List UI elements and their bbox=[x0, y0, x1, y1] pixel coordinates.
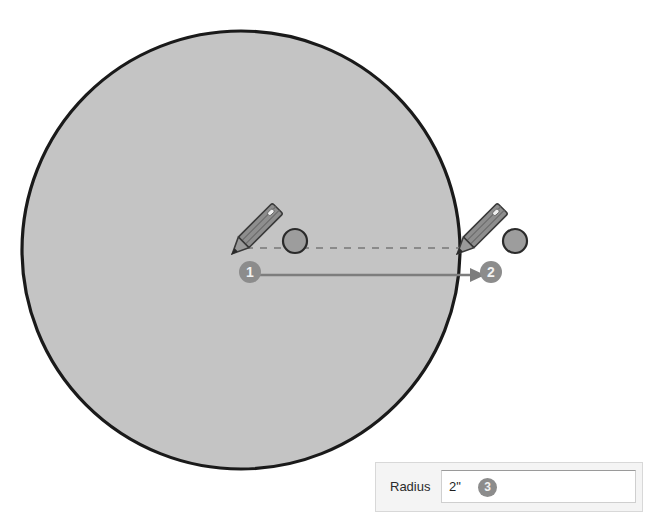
radius-label: Radius bbox=[390, 479, 430, 494]
point-marker-start bbox=[283, 229, 307, 253]
point-marker-end bbox=[503, 229, 527, 253]
radius-value-text: 2" bbox=[449, 479, 461, 494]
drawing-canvas[interactable]: 1 2 Radius 2" 3 bbox=[0, 0, 661, 525]
artwork-layer bbox=[0, 0, 661, 525]
step-badge-1: 1 bbox=[239, 261, 261, 283]
radius-input[interactable] bbox=[441, 470, 636, 503]
step-badge-3: 3 bbox=[478, 478, 497, 497]
step-badge-2: 2 bbox=[480, 261, 502, 283]
